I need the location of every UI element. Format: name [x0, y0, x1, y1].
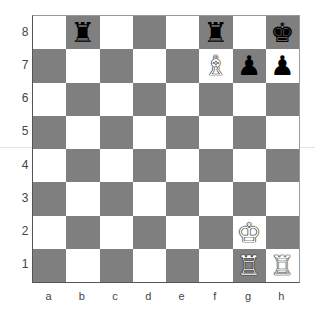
square-e3[interactable]	[166, 182, 199, 215]
square-c7[interactable]	[100, 49, 133, 82]
rank-label-2: 2	[20, 224, 30, 238]
file-label-h: h	[265, 290, 298, 302]
rank-label-4: 4	[20, 158, 30, 172]
square-b5[interactable]	[66, 116, 99, 149]
square-a3[interactable]	[33, 182, 66, 215]
square-e2[interactable]	[166, 216, 199, 249]
rank-label-1: 1	[20, 257, 30, 271]
square-h8[interactable]: ♚	[266, 16, 299, 49]
square-c6[interactable]	[100, 83, 133, 116]
square-h3[interactable]	[266, 182, 299, 215]
square-g5[interactable]	[233, 116, 266, 149]
rank-label-6: 6	[20, 91, 30, 105]
square-d8[interactable]	[133, 16, 166, 49]
square-h4[interactable]	[266, 149, 299, 182]
square-c2[interactable]	[100, 216, 133, 249]
square-b6[interactable]	[66, 83, 99, 116]
square-b7[interactable]	[66, 49, 99, 82]
square-a6[interactable]	[33, 83, 66, 116]
file-label-e: e	[165, 290, 198, 302]
square-f4[interactable]	[199, 149, 232, 182]
square-h6[interactable]	[266, 83, 299, 116]
black-king-icon[interactable]: ♚	[270, 19, 294, 46]
rank-label-8: 8	[20, 25, 30, 39]
square-a1[interactable]	[33, 249, 66, 282]
square-a5[interactable]	[33, 116, 66, 149]
square-g2[interactable]: ♔	[233, 216, 266, 249]
rank-label-7: 7	[20, 58, 30, 72]
square-d6[interactable]	[133, 83, 166, 116]
file-label-a: a	[32, 290, 65, 302]
square-f2[interactable]	[199, 216, 232, 249]
file-label-d: d	[132, 290, 165, 302]
square-b8[interactable]: ♜	[66, 16, 99, 49]
square-e1[interactable]	[166, 249, 199, 282]
square-f3[interactable]	[199, 182, 232, 215]
square-h7[interactable]: ♟	[266, 49, 299, 82]
rank-label-5: 5	[20, 124, 30, 138]
white-king-icon[interactable]: ♔	[237, 219, 261, 246]
square-e8[interactable]	[166, 16, 199, 49]
square-d1[interactable]	[133, 249, 166, 282]
square-c5[interactable]	[100, 116, 133, 149]
square-d4[interactable]	[133, 149, 166, 182]
white-bishop-icon[interactable]: ♗	[204, 52, 228, 79]
square-a2[interactable]	[33, 216, 66, 249]
square-e4[interactable]	[166, 149, 199, 182]
chess-board[interactable]: ♜♜♚♗♟♟♔♖♖	[32, 15, 300, 283]
file-label-c: c	[99, 290, 132, 302]
square-c8[interactable]	[100, 16, 133, 49]
square-g3[interactable]	[233, 182, 266, 215]
square-f5[interactable]	[199, 116, 232, 149]
square-f6[interactable]	[199, 83, 232, 116]
square-e5[interactable]	[166, 116, 199, 149]
black-pawn-icon[interactable]: ♟	[237, 52, 261, 79]
square-c3[interactable]	[100, 182, 133, 215]
black-pawn-icon[interactable]: ♟	[270, 52, 294, 79]
square-d3[interactable]	[133, 182, 166, 215]
square-b1[interactable]	[66, 249, 99, 282]
square-g7[interactable]: ♟	[233, 49, 266, 82]
square-c1[interactable]	[100, 249, 133, 282]
white-rook-icon[interactable]: ♖	[237, 252, 261, 279]
square-b2[interactable]	[66, 216, 99, 249]
square-h5[interactable]	[266, 116, 299, 149]
square-h1[interactable]: ♖	[266, 249, 299, 282]
file-label-f: f	[198, 290, 231, 302]
square-f1[interactable]	[199, 249, 232, 282]
square-d7[interactable]	[133, 49, 166, 82]
square-a8[interactable]	[33, 16, 66, 49]
square-d2[interactable]	[133, 216, 166, 249]
file-label-g: g	[232, 290, 265, 302]
square-a7[interactable]	[33, 49, 66, 82]
square-b3[interactable]	[66, 182, 99, 215]
square-e7[interactable]	[166, 49, 199, 82]
white-rook-icon[interactable]: ♖	[270, 252, 294, 279]
square-g8[interactable]	[233, 16, 266, 49]
square-h2[interactable]	[266, 216, 299, 249]
square-e6[interactable]	[166, 83, 199, 116]
rank-label-3: 3	[20, 191, 30, 205]
square-f8[interactable]: ♜	[199, 16, 232, 49]
square-d5[interactable]	[133, 116, 166, 149]
square-g1[interactable]: ♖	[233, 249, 266, 282]
square-c4[interactable]	[100, 149, 133, 182]
square-a4[interactable]	[33, 149, 66, 182]
square-b4[interactable]	[66, 149, 99, 182]
square-g4[interactable]	[233, 149, 266, 182]
square-f7[interactable]: ♗	[199, 49, 232, 82]
black-rook-icon[interactable]: ♜	[71, 19, 95, 46]
square-g6[interactable]	[233, 83, 266, 116]
black-rook-icon[interactable]: ♜	[204, 19, 228, 46]
file-label-b: b	[65, 290, 98, 302]
